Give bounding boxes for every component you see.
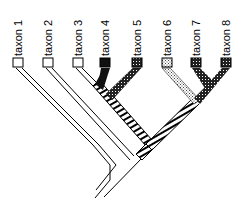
label-taxon-1: taxon 1 — [13, 20, 24, 56]
box-taxon-3 — [73, 58, 83, 67]
label-taxon-2: taxon 2 — [43, 20, 54, 56]
branch-taxon-6 — [162, 68, 200, 104]
box-taxon-6 — [162, 58, 172, 67]
box-taxon-4 — [100, 58, 110, 67]
label-taxon-3: taxon 3 — [73, 20, 84, 56]
box-taxon-2 — [43, 58, 53, 67]
branch-taxon-3 — [76, 68, 96, 86]
root-stem — [96, 158, 142, 197]
label-taxon-5: taxon 5 — [132, 20, 143, 56]
box-taxon-8 — [221, 58, 231, 67]
label-taxon-4: taxon 4 — [100, 20, 111, 56]
label-taxon-7: taxon 7 — [191, 20, 202, 56]
box-taxon-7 — [191, 58, 201, 67]
branch-clade-6-8 — [146, 97, 200, 150]
label-taxon-8: taxon 8 — [221, 20, 232, 56]
branch-clade-3-5 — [93, 80, 152, 146]
box-taxon-1 — [13, 58, 23, 67]
cladogram — [0, 0, 246, 207]
branch-taxon-5 — [106, 68, 141, 100]
label-taxon-6: taxon 6 — [162, 20, 173, 56]
box-taxon-5 — [132, 58, 142, 67]
